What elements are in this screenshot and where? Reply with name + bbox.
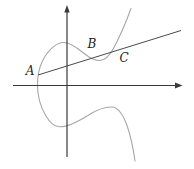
elliptic-curve-diagram: A B C [0, 0, 194, 169]
point-label-b: B [87, 37, 97, 51]
x-axis-arrowhead-icon [175, 83, 183, 89]
secant-line [38, 31, 181, 76]
point-label-a: A [25, 64, 35, 78]
point-label-c: C [119, 51, 128, 65]
diagram-canvas: A B C [0, 0, 194, 169]
elliptic-curve [38, 9, 136, 162]
y-axis-arrowhead-icon [64, 5, 69, 13]
